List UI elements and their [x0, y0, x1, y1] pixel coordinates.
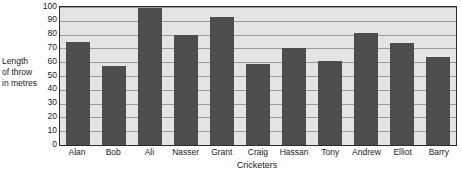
x-axis-title: Cricketers — [59, 160, 455, 170]
plot-area — [59, 6, 457, 146]
y-tick-label: 50 — [48, 71, 57, 80]
y-tick-label: 90 — [48, 15, 57, 24]
x-tick-label: Hassan — [276, 147, 312, 159]
bar — [138, 8, 162, 145]
x-tick-label: Alan — [59, 147, 95, 159]
y-tick-label: 30 — [48, 98, 57, 107]
x-tick-label: Nasser — [168, 147, 204, 159]
bars-group — [60, 7, 456, 145]
y-tick-label: 10 — [48, 126, 57, 135]
y-tick-label: 80 — [48, 29, 57, 38]
y-tick-label: 70 — [48, 43, 57, 52]
y-tick-label: 100 — [43, 2, 57, 11]
y-tick-label: 40 — [48, 84, 57, 93]
bar — [318, 61, 342, 145]
bar — [102, 66, 126, 145]
bar — [210, 17, 234, 145]
bar — [390, 43, 414, 145]
y-axis-tick-labels: 0102030405060708090100 — [40, 0, 57, 150]
bar — [66, 42, 90, 146]
x-axis-tick-labels: AlanBobAliNasserGrantCraigHassanTonyAndr… — [59, 147, 457, 159]
bar — [174, 35, 198, 145]
x-tick-label: Barry — [421, 147, 457, 159]
x-tick-label: Elliot — [385, 147, 421, 159]
bar — [282, 48, 306, 145]
y-tick-label: 20 — [48, 112, 57, 121]
bar — [426, 57, 450, 145]
y-tick-label: 0 — [52, 140, 57, 149]
bar-chart-figure: Length of throw in metres 01020304050607… — [0, 0, 461, 176]
bar — [354, 33, 378, 145]
x-tick-label: Grant — [204, 147, 240, 159]
x-tick-label: Tony — [312, 147, 348, 159]
y-tick-label: 60 — [48, 57, 57, 66]
x-tick-label: Ali — [131, 147, 167, 159]
x-tick-label: Bob — [95, 147, 131, 159]
x-tick-label: Craig — [240, 147, 276, 159]
x-tick-label: Andrew — [348, 147, 384, 159]
bar — [246, 64, 270, 145]
